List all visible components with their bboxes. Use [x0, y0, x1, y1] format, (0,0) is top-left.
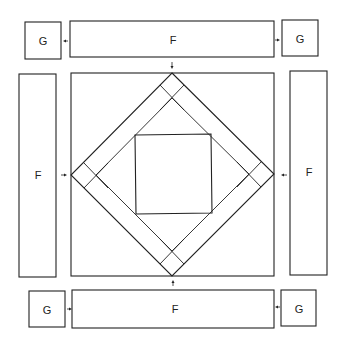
- top-f-arrow: [171, 62, 174, 69]
- bottom-right-g-piece: G: [281, 290, 316, 326]
- top-left-g-arrow: [63, 40, 68, 43]
- left-f-piece: F: [19, 74, 56, 277]
- piece-label: F: [172, 303, 179, 315]
- piece-label: G: [296, 33, 305, 45]
- piece-label: G: [39, 35, 48, 47]
- piece-label: F: [170, 34, 177, 46]
- piece-label: G: [295, 303, 304, 315]
- outer-square: [71, 73, 274, 276]
- quilt-assembly-diagram: G F G F: [0, 0, 340, 345]
- right-f-piece: F: [290, 71, 327, 275]
- inner-square: [135, 134, 212, 214]
- top-f-piece: F: [70, 21, 274, 57]
- left-f-arrow: [61, 174, 67, 177]
- top-left-g-piece: G: [25, 22, 61, 59]
- piece-label: G: [43, 304, 52, 316]
- piece-label: F: [306, 166, 313, 178]
- top-right-g-piece: G: [282, 20, 318, 56]
- right-f-arrow: [281, 174, 287, 177]
- center-block: [71, 73, 274, 276]
- band-corner-lines: [84, 85, 261, 264]
- piece-label: F: [35, 169, 42, 181]
- bottom-left-g-piece: G: [29, 291, 65, 327]
- bottom-right-g-arrow: [275, 306, 280, 309]
- outer-diamond: [71, 73, 274, 276]
- inner-diamond: [96, 98, 249, 251]
- bottom-f-piece: F: [72, 290, 274, 328]
- bottom-left-g-arrow: [67, 308, 72, 311]
- bottom-f-arrow: [172, 280, 175, 286]
- top-right-g-arrow: [275, 39, 280, 42]
